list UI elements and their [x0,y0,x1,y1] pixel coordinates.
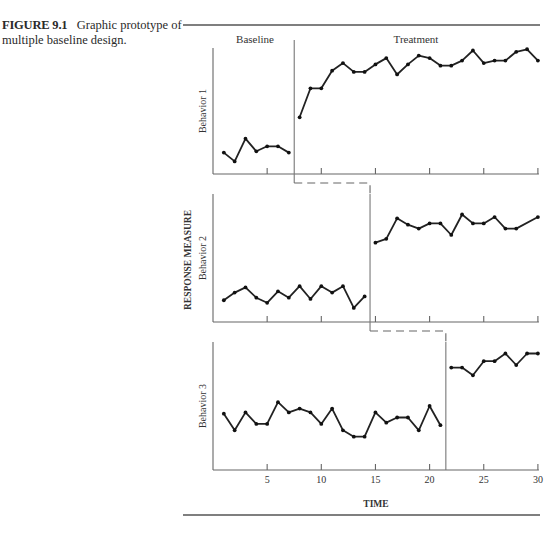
data-point [428,222,432,226]
data-point [222,412,226,416]
data-point [298,407,302,411]
data-point [482,222,486,226]
data-point [319,86,323,90]
x-tick-label: 30 [533,474,543,485]
data-point [330,407,334,411]
panel-label: Behavior 1 [197,89,208,133]
data-point [449,366,453,370]
x-axis-label: TIME [363,499,388,509]
data-point [309,411,313,415]
data-point [525,352,529,356]
data-point [417,54,421,58]
data-point [276,144,280,148]
x-tick-label: 20 [425,474,435,485]
series-treatment [375,215,538,243]
data-point [374,241,378,245]
data-point [406,223,410,227]
data-point [514,50,518,54]
data-point [254,296,258,300]
data-point [504,59,508,63]
data-point [384,237,388,241]
data-point [471,222,475,226]
data-point [244,411,248,415]
data-point [352,70,356,74]
data-point [254,149,258,153]
panels: Behavior 1Behavior 2Behavior 35101520253… [197,40,543,485]
data-point [384,421,388,425]
data-point [222,151,226,155]
y-axis-label: RESPONSE MEASURE [183,210,193,310]
data-point [309,297,313,301]
data-point [536,59,540,63]
phase-connector-dashed [370,331,446,342]
data-point [265,144,269,148]
panel-label: Behavior 3 [197,384,208,428]
data-point [352,306,356,310]
data-point [449,64,453,68]
data-point [395,216,399,220]
data-point [504,227,508,231]
x-tick-label: 10 [316,474,326,485]
data-point [352,435,356,439]
panel-label: Behavior 2 [197,236,208,280]
data-point [417,227,421,231]
data-point [395,416,399,420]
data-point [417,428,421,432]
x-tick-label: 25 [479,474,489,485]
data-point [406,416,410,420]
data-point [374,62,378,66]
data-point [319,284,323,288]
data-point [374,411,378,415]
series-treatment [300,49,538,117]
series-treatment [451,354,538,376]
multiple-baseline-chart: Baseline Treatment RESPONSE MEASURE TIME… [0,0,550,542]
data-point [395,73,399,77]
data-point [460,213,464,217]
data-point [233,291,237,295]
data-point [222,298,226,302]
data-point [287,296,291,300]
data-point [265,301,269,305]
panel-1: Behavior 1 [197,40,540,183]
data-point [254,422,258,426]
data-point [319,422,323,426]
data-point [276,400,280,404]
data-point [460,366,464,370]
data-point [439,222,443,226]
data-point [384,56,388,60]
data-point [341,284,345,288]
data-point [341,428,345,432]
data-point [233,160,237,164]
data-point [233,428,237,432]
data-point [493,359,497,363]
data-point [406,62,410,66]
data-point [504,352,508,356]
data-point [341,61,345,65]
data-point [482,359,486,363]
phase-label-baseline: Baseline [236,33,274,45]
data-point [514,227,518,231]
data-point [330,291,334,295]
data-point [493,59,497,63]
data-point [363,435,367,439]
data-point [493,215,497,219]
data-point [298,115,302,119]
data-point [244,286,248,290]
data-point [276,289,280,293]
data-point [471,373,475,377]
panel-3: Behavior 351015202530 [197,342,543,485]
phase-label-treatment: Treatment [394,33,439,45]
panel-2: Behavior 2 [197,194,540,331]
data-point [287,411,291,415]
data-point [471,49,475,53]
data-point [536,215,540,219]
data-point [265,422,269,426]
data-point [460,59,464,63]
series-baseline [224,286,365,308]
data-point [298,284,302,288]
data-point [439,64,443,68]
data-point [514,363,518,367]
x-tick-label: 5 [265,474,270,485]
data-point [449,233,453,237]
data-point [330,69,334,73]
